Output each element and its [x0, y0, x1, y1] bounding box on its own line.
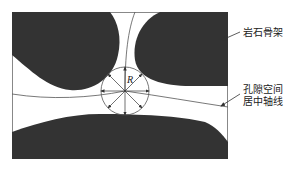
label-rock-skeleton: 岩石骨架	[243, 27, 283, 39]
radius-label: R	[126, 74, 133, 85]
rock-grain-top-right	[134, 12, 228, 86]
label-pore-axis-2: 居中轴线	[243, 96, 283, 108]
label-pore-axis-1: 孔隙空间	[243, 84, 283, 96]
radius-arrows	[101, 67, 149, 115]
